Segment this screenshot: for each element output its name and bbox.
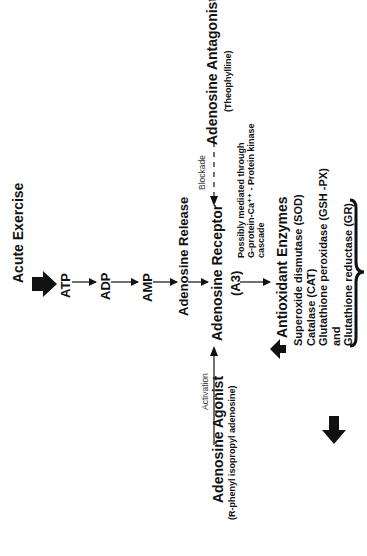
acute-exercise-label: Acute Exercise	[11, 183, 25, 283]
node-atp: ATP	[59, 273, 72, 298]
mechanism-note: Possibly mediated through G-protein-Ca⁺⁺…	[236, 123, 266, 258]
mechanism-line-3: cascade	[256, 123, 266, 258]
bold-arrow-exercise-to-atp	[32, 271, 57, 297]
adenosine-receptor-label: Adenosine Receptor	[210, 205, 224, 341]
adenosine-antagonist-label: Adenosine Antagonist	[205, 0, 219, 145]
enzyme-list: Superoxide dismutase (SOD) Catalase (CAT…	[292, 168, 355, 346]
antagonist-example: (Theophylline)	[224, 51, 233, 113]
mechanism-line-2: G-protein-Ca⁺⁺ - Protein kinase	[246, 123, 256, 258]
adenosine-agonist-label: Adenosine Agonist	[211, 376, 225, 503]
activation-arrowhead	[210, 346, 218, 356]
antioxidant-enzymes-title: Antioxidant Enzymes	[275, 196, 289, 338]
small-bold-arrow-enzymes	[270, 339, 286, 359]
blockade-label: Blockade	[198, 155, 207, 190]
enzyme-cat: Catalase (CAT)	[305, 168, 318, 346]
enzyme-sod: Superoxide dismutase (SOD)	[292, 168, 305, 346]
bold-arrow-brace	[322, 416, 346, 444]
node-adenosine-release: Adenosine Release	[177, 197, 190, 316]
enzyme-and: and	[330, 168, 343, 346]
activation-label: Activation	[201, 373, 210, 410]
agonist-example: (R-phenyl isopropyl adenosine)	[228, 385, 237, 520]
mechanism-line-1: Possibly mediated through	[236, 123, 246, 258]
node-amp: AMP	[141, 273, 154, 302]
receptor-subtype-label: (A3)	[229, 271, 242, 296]
enzyme-gr: Glutathione reductase (GR)	[342, 168, 355, 346]
enzyme-gshpx: Glutathione peroxidase (GSH -PX)	[317, 168, 330, 346]
node-adp: ADP	[99, 273, 112, 300]
